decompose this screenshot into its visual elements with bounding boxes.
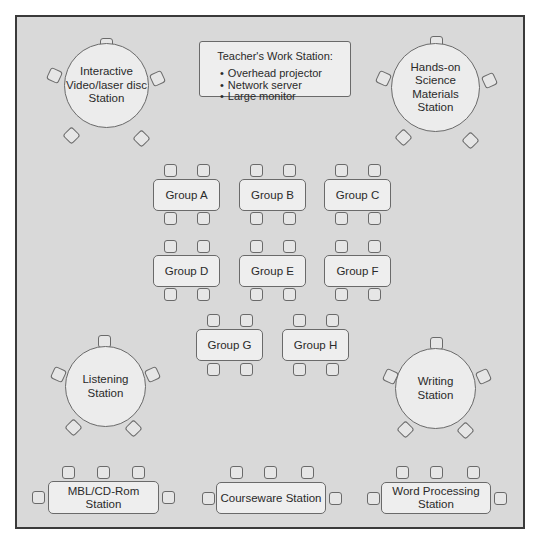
station-label-line: Station	[66, 92, 147, 106]
group-label: Group D	[165, 265, 208, 278]
group-table-f: Group F	[324, 255, 391, 287]
chair	[326, 363, 339, 376]
group-label: Group G	[207, 339, 251, 352]
chair	[250, 212, 263, 225]
chair	[283, 212, 296, 225]
chair	[32, 491, 45, 504]
chair	[368, 288, 381, 301]
group-table-a: Group A	[153, 179, 220, 211]
teacher-work-station: Teacher's Work Station: Overhead project…	[199, 41, 351, 97]
listening-station: Listening Station	[65, 346, 146, 427]
chair	[230, 466, 243, 479]
chair	[207, 314, 220, 327]
station-label-line: Station	[418, 389, 454, 403]
chair	[197, 164, 210, 177]
chair	[207, 363, 220, 376]
chair	[162, 491, 175, 504]
courseware-station: Courseware Station	[216, 482, 326, 514]
station-label-line: Word Processing	[392, 485, 479, 498]
chair	[368, 212, 381, 225]
chair	[335, 288, 348, 301]
group-label: Group E	[251, 265, 294, 278]
station-label-line: Writing	[418, 375, 454, 389]
group-label: Group F	[336, 265, 378, 278]
chair	[335, 212, 348, 225]
station-label-line: Interactive	[66, 65, 147, 79]
chair	[494, 492, 507, 505]
chair	[202, 492, 215, 505]
chair	[197, 212, 210, 225]
chair	[283, 288, 296, 301]
group-label: Group B	[251, 189, 294, 202]
station-label-line: Video/laser disc	[66, 79, 147, 93]
interactive-video-station: Interactive Video/laser disc Station	[64, 43, 149, 128]
chair	[250, 288, 263, 301]
station-label-line: Materials	[392, 88, 479, 102]
station-label-line: Courseware Station	[221, 492, 322, 505]
chair	[197, 288, 210, 301]
chair	[240, 363, 253, 376]
chair	[240, 314, 253, 327]
word-processing-station: Word Processing Station	[381, 482, 491, 514]
chair	[164, 164, 177, 177]
writing-station: Writing Station	[395, 348, 476, 429]
station-label-line: Station	[82, 387, 128, 401]
group-table-c: Group C	[324, 179, 391, 211]
station-label-line: Hands-on Science	[392, 61, 479, 88]
chair	[164, 212, 177, 225]
group-label: Group A	[165, 189, 207, 202]
chair	[430, 466, 443, 479]
chair	[301, 466, 314, 479]
group-table-d: Group D	[153, 255, 220, 287]
group-table-h: Group H	[282, 329, 349, 361]
chair	[264, 466, 277, 479]
chair	[293, 363, 306, 376]
hands-on-science-station: Hands-on Science Materials Station	[391, 43, 480, 132]
station-label-line: Station	[392, 101, 479, 115]
group-table-b: Group B	[239, 179, 306, 211]
group-table-e: Group E	[239, 255, 306, 287]
station-label-line: Station	[392, 498, 479, 511]
teacher-equipment-list: Overhead projector Network server Large …	[220, 68, 322, 103]
chair	[250, 164, 263, 177]
station-label-line: Listening	[82, 373, 128, 387]
chair	[97, 466, 110, 479]
chair	[283, 164, 296, 177]
chair	[367, 492, 380, 505]
chair	[335, 240, 348, 253]
chair	[467, 466, 480, 479]
chair	[293, 314, 306, 327]
group-label: Group H	[294, 339, 337, 352]
chair	[396, 466, 409, 479]
group-label: Group C	[336, 189, 379, 202]
equipment-item: Overhead projector	[220, 68, 322, 80]
teacher-station-title: Teacher's Work Station:	[200, 51, 350, 63]
chair	[326, 314, 339, 327]
group-table-g: Group G	[196, 329, 263, 361]
station-label-line: MBL/CD-Rom Station	[49, 485, 158, 511]
chair	[335, 164, 348, 177]
chair	[368, 240, 381, 253]
equipment-item: Large monitor	[220, 91, 322, 103]
chair	[250, 240, 263, 253]
chair	[329, 492, 342, 505]
chair	[283, 240, 296, 253]
chair	[62, 466, 75, 479]
chair	[132, 466, 145, 479]
chair	[164, 240, 177, 253]
chair	[368, 164, 381, 177]
chair	[197, 240, 210, 253]
mbl-cdrom-station: MBL/CD-Rom Station	[48, 481, 159, 514]
chair	[164, 288, 177, 301]
